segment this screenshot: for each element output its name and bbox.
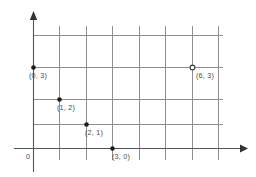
point-label-0-3: (0, 3): [29, 72, 47, 79]
x-axis-arrow-icon: [240, 145, 248, 153]
coordinate-grid-figure: (0, 3) (1, 2) (2, 1) (3, 0) (6, 3) 0: [0, 0, 256, 177]
data-point-2-1: [84, 122, 89, 127]
data-point-3-0: [110, 146, 115, 151]
point-label-6-3: (6, 3): [196, 72, 214, 79]
data-point-1-2: [57, 97, 62, 102]
plot-canvas: [0, 0, 256, 177]
data-points: [31, 65, 195, 151]
y-axis-arrow-icon: [30, 11, 37, 20]
point-label-2-1: (2, 1): [85, 129, 103, 136]
point-label-1-2: (1, 2): [57, 104, 75, 111]
vertical-gridlines: [60, 26, 219, 160]
data-point-0-3: [31, 65, 36, 70]
origin-label: 0: [26, 153, 30, 160]
data-point-6-3: [190, 65, 195, 70]
x-axis: [14, 145, 248, 153]
point-label-3-0: (3, 0): [112, 153, 130, 160]
